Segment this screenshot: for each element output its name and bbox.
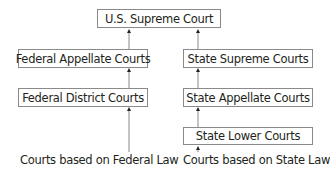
node-state-appellate-courts: State Appellate Courts (183, 88, 313, 107)
node-state-lower-courts: State Lower Courts (183, 127, 313, 145)
node-state-supreme-courts: State Supreme Courts (183, 49, 313, 68)
node-federal-district-courts: Federal District Courts (18, 88, 148, 107)
node-us-supreme-court: U.S. Supreme Court (97, 9, 221, 28)
node-federal-appellate-courts: Federal Appellate Courts (18, 49, 148, 68)
source-state-law: Courts based on State Law (183, 153, 330, 167)
source-federal-law: Courts based on Federal Law (20, 153, 178, 167)
